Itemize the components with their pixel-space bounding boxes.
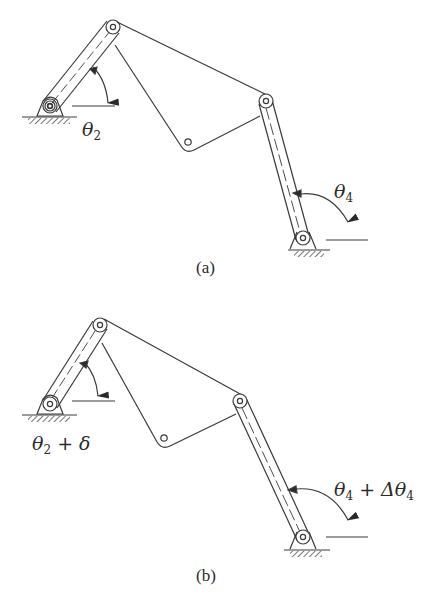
theta2-delta-angle-indicator xyxy=(72,361,115,401)
ground-pivot-o4 xyxy=(284,530,330,557)
angle-symbol: θ xyxy=(32,432,43,454)
rocker-link-4 xyxy=(233,394,309,540)
angle-symbol: θ xyxy=(334,478,345,500)
caption-a: (a) xyxy=(196,258,215,278)
panel-a xyxy=(22,20,368,257)
angle-symbol: θ xyxy=(334,180,345,202)
angle-symbol: θ xyxy=(82,118,93,140)
theta4-plus-delta-theta4-label: θ4 + Δθ4 xyxy=(334,478,414,503)
coupler-link-3 xyxy=(102,319,242,447)
theta2-angle-indicator xyxy=(72,67,115,106)
angle-suffix: + δ xyxy=(51,432,90,454)
crank-link-2 xyxy=(43,318,107,411)
angle-subscript: 2 xyxy=(93,129,101,143)
angle-suffix: + Δθ xyxy=(353,478,406,500)
theta2-label: θ2 xyxy=(82,118,101,143)
angle-suffix-subscript: 4 xyxy=(406,489,414,503)
theta2-plus-delta-label: θ2 + δ xyxy=(32,432,91,457)
linkage-diagram xyxy=(0,0,421,600)
caption-b: (b) xyxy=(196,566,216,586)
angle-subscript: 4 xyxy=(345,191,353,205)
ground-pivot-o2 xyxy=(22,97,77,124)
angle-subscript: 2 xyxy=(43,443,51,457)
rocker-link-4 xyxy=(259,94,309,240)
angle-subscript: 4 xyxy=(345,489,353,503)
coupler-link-3 xyxy=(115,22,269,151)
theta4-label: θ4 xyxy=(334,180,353,205)
